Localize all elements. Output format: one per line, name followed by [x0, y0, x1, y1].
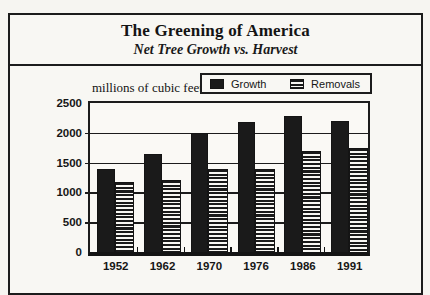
x-axis-label-1962: 1962 — [139, 260, 186, 272]
y-axis-unit-label: millions of cubic feet — [92, 78, 203, 98]
legend-swatch-removals — [290, 79, 304, 89]
axis-tick — [230, 247, 232, 253]
bar-growth-1976 — [238, 122, 256, 252]
axis-tick — [137, 247, 139, 253]
chart-title: The Greening of America — [10, 21, 421, 41]
x-axis-label-1970: 1970 — [186, 260, 233, 272]
y-axis-tick-label-2500: 2500 — [10, 97, 82, 109]
y-axis-tick-label-1000: 1000 — [10, 186, 82, 198]
bar-growth-1991 — [331, 121, 349, 252]
bar-removals-1970 — [208, 169, 228, 252]
bar-removals-1976 — [255, 169, 275, 252]
bar-removals-1986 — [302, 151, 322, 252]
x-axis-label-1952: 1952 — [92, 260, 139, 272]
plot-area — [88, 101, 370, 256]
y-axis-tick-label-2000: 2000 — [10, 127, 82, 139]
x-axis-label-1991: 1991 — [326, 260, 373, 272]
bar-group-1986 — [284, 103, 321, 252]
bar-growth-1986 — [284, 116, 302, 252]
chart-frame: The Greening of America Net Tree Growth … — [8, 13, 423, 295]
legend-swatch-growth — [210, 79, 224, 89]
axis-tick — [184, 247, 186, 253]
chart-subtitle: Net Tree Growth vs. Harvest — [10, 42, 421, 58]
bar-group-1962 — [144, 103, 181, 252]
bar-removals-1991 — [349, 148, 369, 252]
bar-group-1991 — [331, 103, 368, 252]
x-axis-label-1976: 1976 — [233, 260, 280, 272]
x-axis-label-1986: 1986 — [279, 260, 326, 272]
legend-label: Growth — [231, 78, 266, 90]
legend-item: Growth — [210, 78, 266, 90]
bar-removals-1962 — [162, 180, 182, 252]
legend: GrowthRemovals — [200, 73, 372, 94]
y-axis-tick-label-0: 0 — [10, 246, 82, 258]
y-axis-tick-label-1500: 1500 — [10, 157, 82, 169]
bar-group-1970 — [191, 103, 228, 252]
axis-tick — [324, 247, 326, 253]
bar-growth-1970 — [191, 133, 209, 252]
bar-growth-1952 — [97, 169, 115, 252]
legend-label: Removals — [311, 78, 360, 90]
y-axis-tick-labels: 05001000150020002500 — [10, 101, 82, 256]
bar-group-1976 — [238, 103, 275, 252]
bar-group-1952 — [97, 103, 134, 252]
y-axis-tick-label-500: 500 — [10, 216, 82, 228]
bar-growth-1962 — [144, 154, 162, 252]
x-axis-tick-labels: 195219621970197619861991 — [88, 260, 370, 276]
bar-removals-1952 — [115, 182, 135, 252]
legend-item: Removals — [290, 78, 360, 90]
header-divider — [10, 64, 421, 66]
axis-tick — [277, 247, 279, 253]
